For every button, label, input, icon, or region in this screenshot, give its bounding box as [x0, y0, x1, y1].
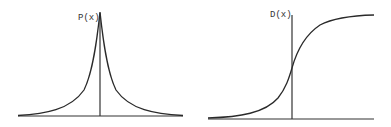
cdf-curve	[208, 15, 374, 118]
cdf-plot: D(x)	[208, 10, 374, 119]
cdf-label: D(x)	[270, 10, 292, 20]
pdf-plot: P(x)	[18, 12, 183, 116]
pdf-label: P(x)	[78, 13, 100, 23]
diagram-canvas: P(x) D(x)	[0, 0, 391, 127]
